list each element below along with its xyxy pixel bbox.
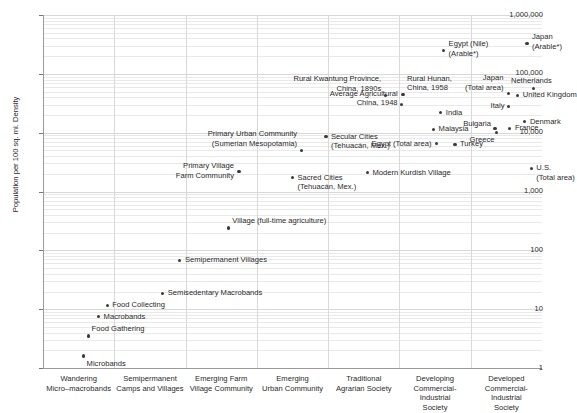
y-tick-mark [39, 15, 43, 16]
gridline-minor [43, 281, 542, 282]
data-point-label: Village (full-time agriculture) [232, 216, 326, 225]
data-point[interactable] [530, 167, 533, 170]
data-point-label: Sacred Cities (Tehuacán, Mex.) [298, 173, 357, 192]
data-point[interactable] [97, 315, 100, 318]
data-point-label: Egypt (Total area) [372, 139, 432, 148]
data-point-label: Primary Village Farm Community [176, 161, 234, 180]
data-point-label: Microbands [87, 359, 126, 368]
category-separator [257, 15, 258, 368]
data-point[interactable] [493, 127, 496, 130]
gridline-minor [43, 33, 542, 34]
gridline-minor [43, 253, 542, 254]
gridline-minor [43, 201, 542, 202]
data-point[interactable] [366, 171, 369, 174]
gridline-minor [43, 205, 542, 206]
data-point-label: Semisedentary Macrobands [168, 288, 263, 297]
y-tick-label: 10 [502, 305, 543, 313]
y-tick-mark [39, 192, 43, 193]
y-tick-label: 1,000,000 [502, 11, 543, 19]
data-point[interactable] [432, 128, 435, 131]
data-point[interactable] [525, 42, 528, 45]
gridline-minor [43, 274, 542, 275]
data-point-label: Egypt (Nile) (Arable*) [449, 39, 489, 58]
y-tick-mark [39, 74, 43, 75]
y-tick-mark [39, 368, 43, 369]
data-point-label: Greece [470, 135, 495, 144]
x-category-label-4: Traditional Agrarian Society [328, 374, 399, 393]
y-tick-mark [39, 133, 43, 134]
data-point-label: Primary Urban Community (Sumerian Mesopo… [208, 129, 297, 148]
gridline-minor [43, 292, 542, 293]
data-point-label: Macrobands [104, 312, 146, 321]
gridline-minor [43, 163, 542, 164]
gridline-minor [43, 340, 542, 341]
data-point[interactable] [507, 105, 510, 108]
gridline-major [43, 192, 542, 193]
gridline-minor [43, 24, 542, 25]
gridline-major [43, 250, 542, 251]
data-point-label: Food Gathering [92, 324, 145, 333]
x-category-label-6: Developed Commercial-Industrial Society [471, 374, 542, 412]
data-point[interactable] [106, 304, 109, 307]
data-point[interactable] [87, 334, 90, 337]
y-tick-mark [39, 309, 43, 310]
data-point-label: U.S. (Total area) [536, 163, 574, 182]
y-tick-label: 100 [502, 246, 543, 254]
data-point[interactable] [82, 354, 85, 357]
data-point-label: Japan (Arable*) [532, 32, 562, 51]
gridline-minor [43, 150, 542, 151]
data-point-label: Bulgaria [463, 119, 491, 128]
data-point[interactable] [227, 226, 230, 229]
gridline-minor [43, 28, 542, 29]
gridline-minor [43, 268, 542, 269]
gridline-major [43, 15, 542, 16]
category-separator [471, 15, 472, 368]
gridline-minor [43, 233, 542, 234]
gridline-minor [43, 156, 542, 157]
data-point[interactable] [453, 143, 456, 146]
data-point-label: United Kingdom [523, 90, 577, 99]
data-point-label: Average Agricultural China, 1948 [330, 89, 398, 108]
data-point-label: India [446, 108, 462, 117]
x-category-label-0: Wandering Micro–macrobands [43, 374, 114, 393]
x-category-label-3: Emerging Urban Community [257, 374, 328, 393]
gridline-minor [43, 105, 542, 106]
gridline-minor [43, 97, 542, 98]
data-point-label: Food Collecting [112, 300, 165, 309]
data-point[interactable] [324, 135, 327, 138]
x-category-label-5: Developing Commercial-Industrial Society [399, 374, 470, 412]
x-category-label-2: Emerging Farm Village Community [186, 374, 257, 393]
gridline-minor [43, 21, 542, 22]
x-category-label-1: Semipermanent Camps and Villages [114, 374, 185, 393]
gridline-minor [43, 194, 542, 195]
data-point[interactable] [237, 170, 240, 173]
gridline-minor [43, 263, 542, 264]
y-tick-label: 1,000 [502, 187, 543, 195]
category-separator [186, 15, 187, 368]
gridline-minor [43, 209, 542, 210]
y-axis-line [43, 15, 44, 368]
gridline-minor [43, 350, 542, 351]
data-point[interactable] [507, 92, 510, 95]
data-point-label: Netherlands [511, 76, 552, 85]
data-point-label: Japan (Total area) [465, 73, 503, 92]
gridline-minor [43, 256, 542, 257]
data-point-label: Italy [491, 101, 505, 110]
gridline-minor [43, 197, 542, 198]
data-point-label: Rural Hunan, China, 1958 [407, 74, 452, 93]
gridline-minor [43, 18, 542, 19]
data-point-label: Modern Kurdish Village [372, 168, 450, 177]
gridline-minor [43, 259, 542, 260]
category-separator [399, 15, 400, 368]
y-axis-title: Population per 100 sq. mi. Density [11, 70, 20, 240]
data-point[interactable] [532, 87, 535, 90]
data-point[interactable] [300, 149, 303, 152]
data-point-label: Semipermanent Villages [185, 255, 267, 264]
y-tick-mark [39, 250, 43, 251]
y-tick-label: 1 [502, 364, 543, 372]
data-point-label: Denmark [530, 117, 561, 126]
gridline-minor [43, 174, 542, 175]
gridline-minor [43, 115, 542, 116]
